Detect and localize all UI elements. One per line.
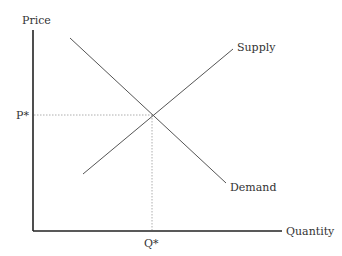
p-star-label: P* (16, 109, 29, 122)
y-axis-label: Price (22, 14, 51, 27)
demand-label: Demand (230, 181, 276, 194)
q-star-label: Q* (144, 237, 159, 250)
supply-label: Supply (237, 41, 276, 54)
supply-demand-diagram: Price Quantity Supply Demand P* Q* (0, 0, 342, 256)
demand-curve (70, 38, 226, 183)
x-axis-label: Quantity (286, 225, 335, 238)
supply-curve (83, 49, 233, 174)
